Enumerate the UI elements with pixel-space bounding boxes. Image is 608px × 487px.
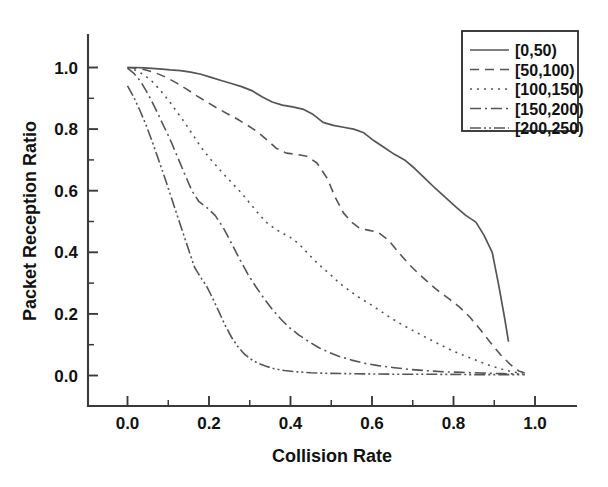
- x-tick-label: 0.6: [360, 414, 384, 433]
- x-tick-label: 0.8: [442, 414, 466, 433]
- x-tick-label: 1.0: [523, 414, 547, 433]
- y-axis-ticks: [88, 68, 98, 376]
- y-tick-label: 0.2: [54, 305, 78, 324]
- legend-label-4: [200,250): [515, 120, 584, 137]
- legend-label-1: [50,100): [515, 62, 575, 79]
- y-axis-tick-labels: 0.00.20.40.60.81.0: [54, 59, 78, 386]
- legend-label-2: [100,150): [515, 81, 584, 98]
- y-axis-title: Packet Reception Ratio: [20, 121, 40, 321]
- x-axis-ticks: [128, 396, 536, 406]
- x-tick-label: 0.2: [197, 414, 221, 433]
- packet-reception-ratio-chart: 0.00.20.40.60.81.0 0.00.20.40.60.81.0 Co…: [0, 0, 608, 487]
- x-tick-label: 0.4: [279, 414, 303, 433]
- y-tick-label: 1.0: [54, 59, 78, 78]
- y-tick-label: 0.0: [54, 367, 78, 386]
- series-line-0: [128, 68, 509, 342]
- x-tick-label: 0.0: [116, 414, 140, 433]
- x-axis-tick-labels: 0.00.20.40.60.81.0: [116, 414, 547, 433]
- y-tick-label: 0.6: [54, 182, 78, 201]
- chart-figure: 0.00.20.40.60.81.0 0.00.20.40.60.81.0 Co…: [0, 0, 608, 487]
- x-axis-title: Collision Rate: [272, 446, 392, 466]
- series-line-3: [128, 68, 519, 374]
- legend-label-0: [0,50): [515, 42, 557, 59]
- y-tick-label: 0.4: [54, 243, 78, 262]
- legend: [0,50)[50,100)[100,150)[150,200)[200,250…: [462, 31, 584, 137]
- y-tick-label: 0.8: [54, 120, 78, 139]
- legend-label-3: [150,200): [515, 101, 584, 118]
